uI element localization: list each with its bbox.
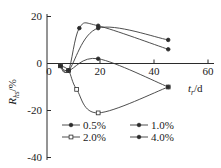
y-tick-label: -20	[27, 104, 42, 116]
x-tick-label: 0	[46, 65, 52, 77]
chart-figure: 20 0 -20 -40 0 20 40 60 Rhs/% tr/d 0.5%1…	[0, 0, 221, 168]
chart-plot-area: 20 0 -20 -40 0 20 40 60 Rhs/% tr/d 0.5%1…	[0, 0, 221, 168]
svg-text:tr/d: tr/d	[188, 82, 203, 97]
x-axis	[47, 60, 214, 64]
legend-label: 4.0%	[151, 131, 174, 143]
series-marker	[96, 26, 100, 30]
legend-label: 0.5%	[83, 119, 106, 131]
series-marker	[166, 38, 170, 42]
series-marker	[59, 64, 63, 68]
legend-item-20[interactable]: 2.0%	[62, 131, 106, 143]
y-axis-label: Rhs/%	[6, 79, 21, 106]
legend-item-10[interactable]: 1.0%	[130, 119, 174, 131]
legend-label: 1.0%	[151, 119, 174, 131]
y-axis	[47, 14, 51, 160]
series-marker	[78, 26, 82, 30]
y-tick-label: 0	[37, 57, 43, 69]
chart-legend: 0.5%1.0%2.0%4.0%	[62, 119, 174, 143]
legend-marker	[69, 123, 73, 127]
x-axis-label-unit: /d	[194, 82, 203, 94]
legend-marker	[137, 135, 141, 139]
x-axis-label: tr/d	[188, 82, 203, 97]
legend-item-05[interactable]: 0.5%	[62, 119, 106, 131]
y-axis-label-unit: /%	[6, 79, 18, 91]
series-marker	[96, 111, 100, 115]
legend-label: 2.0%	[83, 131, 106, 143]
x-tick-label: 20	[95, 65, 107, 77]
legend-marker	[69, 135, 73, 139]
series-marker	[166, 48, 170, 52]
y-tick-label: 20	[31, 10, 43, 22]
series-marker	[96, 57, 100, 61]
x-tick-label: 40	[149, 65, 161, 77]
series-marker	[166, 85, 170, 89]
legend-marker	[137, 123, 141, 127]
y-tick-label: -40	[27, 151, 42, 163]
x-tick-label: 60	[203, 65, 215, 77]
series-marker	[67, 69, 71, 73]
legend-item-40[interactable]: 4.0%	[130, 131, 174, 143]
series-marker	[75, 87, 79, 91]
svg-text:Rhs/%: Rhs/%	[6, 79, 21, 106]
